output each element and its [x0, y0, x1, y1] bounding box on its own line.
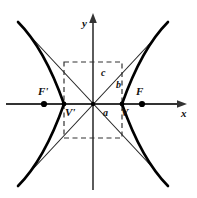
- focus-right-label: F: [136, 86, 143, 97]
- segment-b-label: b: [116, 80, 121, 90]
- focus-left-dot: [41, 101, 47, 107]
- focus-right-dot: [139, 101, 145, 107]
- origin-dot: [91, 102, 95, 106]
- x-axis-label: x: [181, 108, 187, 119]
- y-axis-arrowhead: [89, 13, 97, 23]
- focus-left-label: F': [38, 86, 48, 97]
- vertex-left-label: V': [65, 107, 75, 118]
- segment-a-label: a: [103, 108, 108, 118]
- y-axis-label: y: [82, 18, 87, 29]
- vertex-right-label: V: [121, 107, 128, 118]
- segment-c-label: c: [101, 68, 105, 78]
- hyperbola-figure: y x F' V' V F a b c: [0, 0, 197, 198]
- figure-canvas: [0, 0, 197, 198]
